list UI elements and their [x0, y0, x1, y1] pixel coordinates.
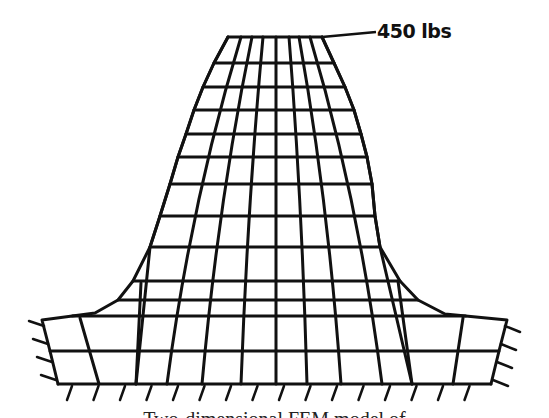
load-leader-line	[322, 32, 376, 37]
support-hatch-right	[493, 380, 508, 386]
mesh-vertical-line	[167, 37, 241, 384]
figure-caption: Two-dimensional FEM model of	[0, 406, 549, 418]
support-hatch-bottom	[385, 386, 390, 400]
support-hatch-bottom	[412, 386, 417, 400]
load-label: 450 lbs	[377, 20, 451, 42]
support-hatch-bottom	[332, 386, 337, 400]
fem-mesh	[42, 37, 507, 384]
support-hatch-bottom	[200, 386, 205, 400]
support-hatch-bottom	[94, 386, 99, 400]
support-hatch-bottom	[465, 386, 470, 400]
support-hatch-bottom	[253, 386, 258, 400]
support-hatch-right	[501, 344, 516, 350]
support-hatch-bottom	[306, 386, 311, 400]
support-hatch-bottom	[147, 386, 152, 400]
support-hatch-bottom	[173, 386, 178, 400]
mesh-vertical-line	[241, 37, 263, 384]
fem-mesh-diagram	[0, 0, 549, 418]
mesh-left-boundary	[42, 37, 228, 384]
mesh-vertical-line	[136, 37, 228, 384]
support-hatch-left	[41, 375, 56, 380]
mesh-vertical-line	[289, 37, 307, 384]
support-hatch-bottom	[120, 386, 125, 400]
support-hatch-bottom	[226, 386, 231, 400]
support-hatch-bottom	[279, 386, 284, 400]
support-hatch-bottom	[438, 386, 443, 400]
support-hatch-bottom	[67, 386, 72, 400]
support-hatch-right	[505, 326, 520, 332]
support-hatch-bottom	[359, 386, 364, 400]
support-hatch-left	[37, 357, 52, 362]
mesh-right-boundary	[322, 37, 507, 384]
support-hatch-right	[497, 362, 512, 368]
